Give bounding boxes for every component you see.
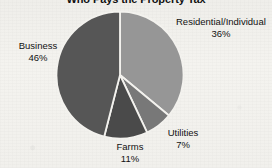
slice-label-residential: Residential/Individual 36% [176, 16, 266, 39]
pie-chart-svg [56, 11, 184, 139]
slice-label-utilities-value: 7% [160, 139, 206, 151]
slice-label-utilities: Utilities 7% [160, 127, 206, 150]
slice-label-farms: Farms 11% [105, 141, 155, 164]
page-title: Who Pays the Property Tax [0, 0, 272, 5]
pie-chart [56, 11, 184, 139]
slice-label-residential-value: 36% [176, 28, 266, 40]
slice-label-business-value: 46% [9, 52, 67, 64]
slice-label-business: Business 46% [9, 40, 67, 63]
slice-label-utilities-name: Utilities [168, 127, 199, 138]
slice-label-business-name: Business [19, 40, 58, 51]
slice-label-residential-name: Residential/Individual [176, 16, 266, 27]
slice-label-farms-value: 11% [105, 153, 155, 165]
pie-slice-group [56, 11, 183, 138]
slice-label-farms-name: Farms [117, 141, 144, 152]
